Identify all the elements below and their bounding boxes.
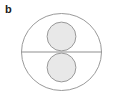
figure-panel-b: b xyxy=(0,0,113,101)
lower-inner-circle xyxy=(47,53,76,82)
panel-label: b xyxy=(5,3,12,16)
upper-inner-circle xyxy=(47,22,76,51)
schematic-diagram xyxy=(0,0,113,101)
